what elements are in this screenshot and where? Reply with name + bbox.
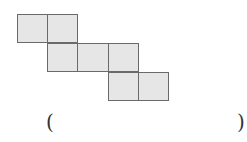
net-square	[17, 14, 48, 43]
answer-close-paren: )	[237, 112, 245, 132]
answer-blank[interactable]	[60, 112, 230, 132]
net-square	[108, 72, 139, 101]
net-square	[47, 14, 78, 43]
net-square	[138, 72, 169, 101]
answer-open-paren: (	[46, 112, 54, 132]
net-square	[77, 43, 109, 72]
net-square	[108, 43, 139, 72]
net-square	[47, 43, 78, 72]
